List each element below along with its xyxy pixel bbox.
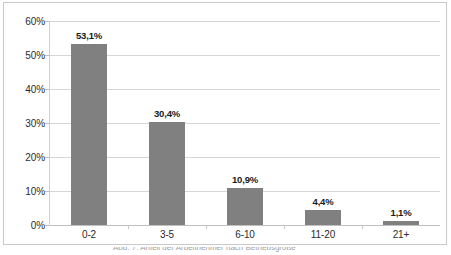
x-axis-tick-mark — [128, 225, 129, 229]
y-axis-tick-label: 20% — [5, 152, 45, 163]
x-axis-category-label: 6-10 — [206, 229, 284, 240]
x-axis-category-label: 3-5 — [128, 229, 206, 240]
x-axis-category-label: 11-20 — [284, 229, 362, 240]
footer-caption-strip: Abb. 7: Anteil der Arbeitnehmer nach Bet… — [3, 247, 447, 255]
clipped-caption-text: Abb. 7: Anteil der Arbeitnehmer nach Bet… — [113, 247, 296, 252]
y-axis-tick-label: 0% — [5, 220, 45, 231]
chart-frame: 0%10%20%30%40%50%60% 53,1%30,4%10,9%4,4%… — [3, 2, 447, 245]
y-axis-tick-label: 10% — [5, 186, 45, 197]
y-axis-tick-label: 60% — [5, 16, 45, 27]
x-axis-tick-mark — [206, 225, 207, 229]
y-axis-tick-label: 50% — [5, 50, 45, 61]
y-axis: 0%10%20%30%40%50%60% — [4, 3, 45, 255]
y-axis-tick-label: 30% — [5, 118, 45, 129]
x-axis-tick-mark — [362, 225, 363, 229]
y-axis-tick-label: 40% — [5, 84, 45, 95]
x-axis: 0-23-56-1011-2021+ — [50, 3, 440, 255]
x-axis-category-label: 0-2 — [50, 229, 128, 240]
x-axis-tick-mark — [284, 225, 285, 229]
x-axis-category-label: 21+ — [362, 229, 440, 240]
